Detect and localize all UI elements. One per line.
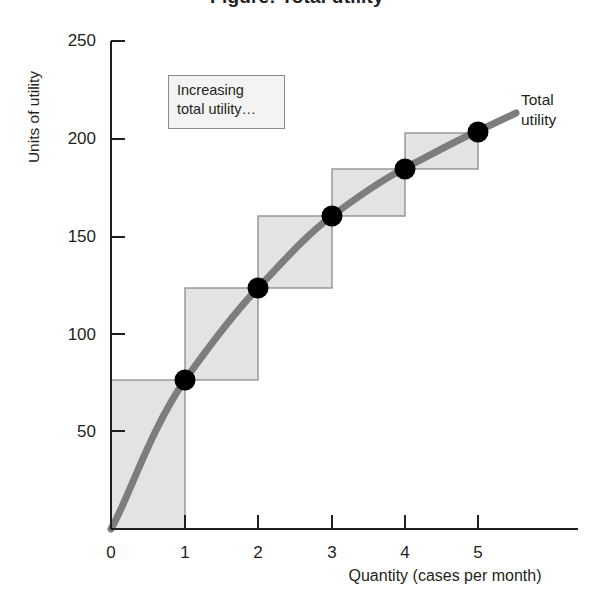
annotation-box: Increasing total utility… bbox=[168, 75, 285, 129]
data-point-q1 bbox=[175, 370, 196, 391]
utility-bars bbox=[111, 133, 478, 529]
series-label-line-1: Total bbox=[521, 90, 556, 110]
data-point-q2 bbox=[248, 278, 269, 299]
series-label: Total utility bbox=[521, 90, 556, 130]
y-axis-ticks bbox=[111, 41, 125, 431]
annotation-line-2: total utility… bbox=[177, 100, 284, 119]
data-point-q5 bbox=[468, 122, 489, 143]
data-point-q4 bbox=[395, 159, 416, 180]
data-point-q3 bbox=[322, 206, 343, 227]
series-label-line-2: utility bbox=[521, 110, 556, 130]
x-axis-ticks bbox=[185, 515, 478, 529]
plot-area bbox=[0, 0, 594, 607]
chart-root: Figure: Total utility Units of utility Q… bbox=[0, 0, 594, 607]
annotation-line-1: Increasing bbox=[177, 81, 284, 100]
